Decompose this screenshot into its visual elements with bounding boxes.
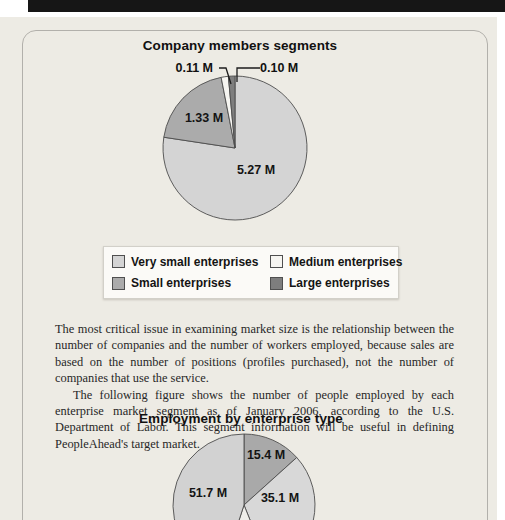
very-small-swatch-icon bbox=[112, 255, 125, 268]
small-swatch-icon bbox=[112, 277, 125, 290]
slice-label-51-7: 51.7 M bbox=[189, 486, 227, 500]
page-top-bar bbox=[28, 0, 505, 12]
legend-item-large: Large enterprises bbox=[270, 276, 402, 290]
slice-label-large: 0.10 M bbox=[260, 61, 298, 75]
slice-label-15-4: 15.4 M bbox=[247, 448, 285, 462]
legend-item-small: Small enterprises bbox=[112, 276, 270, 290]
paragraph-market-size: The most critical issue in examining mar… bbox=[55, 321, 454, 387]
slice-label-very-small: 5.27 M bbox=[237, 163, 275, 177]
medium-swatch-icon bbox=[270, 255, 283, 268]
slice-label-small: 1.33 M bbox=[185, 111, 223, 125]
chart1-legend: Very small enterprises Medium enterprise… bbox=[103, 246, 399, 299]
slice-label-medium: 0.11 M bbox=[175, 61, 213, 75]
employment-pie bbox=[165, 428, 325, 520]
legend-label: Large enterprises bbox=[289, 276, 390, 290]
slice-label-35-1: 35.1 M bbox=[261, 491, 299, 505]
chart2-title: Employment by enterprise type bbox=[139, 411, 343, 426]
large-swatch-icon bbox=[270, 277, 283, 290]
legend-label: Very small enterprises bbox=[131, 255, 258, 269]
legend-item-very-small: Very small enterprises bbox=[112, 255, 270, 269]
legend-item-medium: Medium enterprises bbox=[270, 255, 402, 269]
legend-label: Medium enterprises bbox=[289, 255, 402, 269]
legend-label: Small enterprises bbox=[131, 276, 231, 290]
chart1-title: Company members segments bbox=[143, 38, 337, 53]
